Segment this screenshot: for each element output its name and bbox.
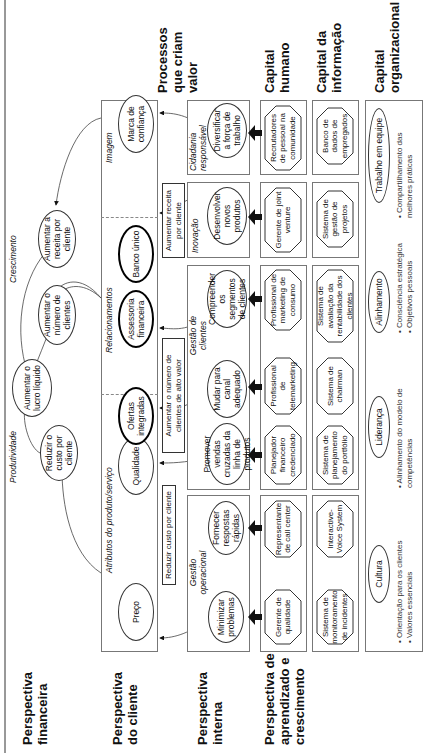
culture-bullets: • Orientação para os clientes• Valores e… (395, 493, 414, 643)
oct-financial-planner: Planejador financeiro credenciado (264, 425, 302, 485)
attributes-label: Atributos do produto/serviço (104, 467, 114, 573)
customer-divider-2 (101, 217, 158, 218)
up-arrow-icon (248, 520, 262, 536)
oct-call-center-rep: Representante de call center (264, 500, 302, 558)
productivity-label: Produtividade (8, 431, 18, 483)
strategy-map: Perspectiva financeira Perspectiva do cl… (0, 0, 437, 753)
oct-jv-manager: Gerente de joint venture (264, 187, 302, 253)
up-arrow-icon (248, 291, 262, 307)
oval-fast-responses: Fornecer respostas rápidas (208, 501, 244, 555)
oval-increase-revenue: Aumentar a receita por cliente (38, 210, 76, 268)
oct-employee-db: Banco de dados de empregados (316, 107, 354, 165)
oct-ivr: Interactive-Voice System (316, 500, 354, 558)
tag-reduce-cost: Reduzir custo por cliente (162, 485, 176, 585)
operational-label: Gestão operacional (188, 550, 208, 595)
oct-recruiters: Recrutadores de pessoal na comunidade (264, 105, 302, 171)
oval-increase-clients: Aumentar o número de clientes (38, 285, 76, 345)
oval-culture: Cultura (368, 545, 390, 603)
alignment-bullets: • Consciência estratégica• Objetivos pes… (395, 223, 414, 333)
oct-portfolio-planning: Sistema de planejamento do portfólio (316, 425, 354, 485)
oval-leadership: Liderança (368, 396, 390, 458)
oval-trusted-brand: Marca de confiança (118, 95, 154, 153)
leadership-bullets: • Alinhamento do modelo de competências (395, 358, 414, 488)
processes-header: Processos que criam valor (155, 3, 200, 93)
oval-integrated-offers: Ofertas integradas (118, 387, 154, 445)
oval-minimize-problems: Minimizar problemas (208, 591, 244, 643)
innovation-label: Inovação (190, 219, 200, 254)
org-capital-header: Capital organizacional (372, 3, 402, 93)
info-capital-header: Capital da informação (314, 3, 344, 93)
oval-alignment: Alinhamento (368, 271, 390, 333)
oval-teamwork: Trabalho em equipe (368, 108, 390, 203)
perspective-financial-label: Perspectiva financeira (20, 655, 50, 745)
oval-understand-segments: Compreender os segmentos de clientes (207, 270, 247, 328)
oct-chairman: Sistema de chairman (316, 357, 354, 415)
oct-consumer-marketing: Profissional de marketing de consumo (264, 269, 302, 331)
citizenship-label: Cidadania responsável (188, 121, 208, 171)
growth-label: Crescimento (8, 235, 18, 283)
oct-profitability: Sistema de avaliação da rentabilidade do… (316, 269, 354, 343)
oval-net-profit: Aumentar o lucro líquido (12, 359, 52, 417)
oct-project-mgmt: Sistema de gestão de projetos (316, 190, 354, 248)
up-arrow-icon (248, 447, 262, 463)
up-arrow-icon (248, 209, 262, 225)
human-capital-header: Capital humano (262, 3, 292, 93)
relationships-label: Relacionamentos (104, 287, 114, 353)
oct-incident-monitoring: Sistema de monitoramento de incidentes (316, 589, 354, 645)
tag-high-value-clients: Aumentar o número de clientes de alto va… (162, 338, 185, 453)
teamwork-bullets: • Compartilhamento das melhores práticas (395, 103, 414, 218)
perspective-internal-label: Perspectiva interna (195, 655, 225, 745)
oval-reduce-cost: Reduzir o custo por cliente (40, 425, 78, 481)
tag-revenue-per-client: Aumentar receita por cliente (162, 183, 185, 258)
oval-change-channel: Mudar para canal adequado (207, 360, 247, 418)
up-arrow-icon (248, 125, 262, 141)
up-arrow-icon (248, 609, 262, 625)
oval-cross-sell: Promover vendas cruzadas da linha de pro… (207, 423, 247, 485)
customer-mgmt-label: Gestão de clientes (188, 313, 208, 358)
image-label: Imagem (104, 132, 114, 163)
oval-financial-advisory: Assessoria financeira (118, 290, 154, 348)
up-arrow-icon (248, 379, 262, 395)
oct-quality-manager: Gerente de qualidade (264, 589, 302, 645)
perspective-learning-label: Perspectiva de aprendizado e crescimento (262, 645, 307, 745)
perspective-customer-label: Perspectiva do cliente (110, 655, 140, 745)
oval-new-products: Desenvolver novos produtos (207, 187, 247, 245)
oval-quality: Qualidade (118, 437, 154, 495)
oval-single-bank: Banco único (118, 225, 154, 283)
oval-price: Preço (118, 583, 154, 641)
oval-diversify-workforce: Diversificar a força de trabalho (207, 103, 247, 158)
oct-telemarketing: Profissional de telemarketing (264, 357, 302, 415)
